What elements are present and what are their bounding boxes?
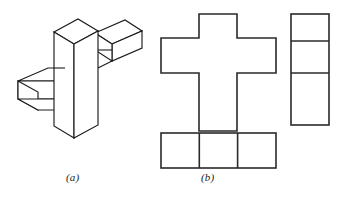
edge-right-join-lower (98, 61, 112, 68)
caption-panel-a: (a) (66, 171, 79, 183)
vertical-beam (54, 19, 98, 138)
vertical-beam-right-face (74, 31, 98, 138)
net-right-strip-outline (291, 14, 329, 125)
panel-a-solid (18, 19, 142, 138)
panel-b-net (161, 14, 329, 168)
figure-canvas (0, 0, 343, 201)
vertical-beam-left-face (54, 32, 74, 138)
right-horizontal-beam (95, 20, 142, 61)
caption-panel-b: (b) (201, 171, 214, 183)
net-bottom-strip (161, 133, 276, 168)
net-bottom-strip-outline (161, 133, 276, 168)
figure-root: (a) (b) (0, 0, 343, 201)
net-right-strip (291, 14, 329, 125)
net-cross-outline (161, 14, 276, 131)
